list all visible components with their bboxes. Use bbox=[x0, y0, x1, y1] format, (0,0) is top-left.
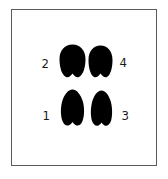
hoof-print-icon bbox=[60, 89, 85, 127]
hoof-print-1 bbox=[60, 89, 85, 127]
hoof-print-icon bbox=[90, 90, 113, 127]
hoof-print-icon bbox=[59, 44, 86, 78]
print-label-4: 4 bbox=[119, 56, 126, 69]
hoof-print-2 bbox=[59, 44, 86, 78]
print-label-3: 3 bbox=[121, 109, 128, 122]
hoof-print-4 bbox=[88, 45, 113, 78]
print-label-1: 1 bbox=[42, 109, 49, 122]
hoof-print-icon bbox=[88, 45, 113, 78]
hoof-print-3 bbox=[90, 90, 113, 127]
diagram-frame bbox=[11, 9, 157, 166]
print-label-2: 2 bbox=[41, 57, 48, 70]
